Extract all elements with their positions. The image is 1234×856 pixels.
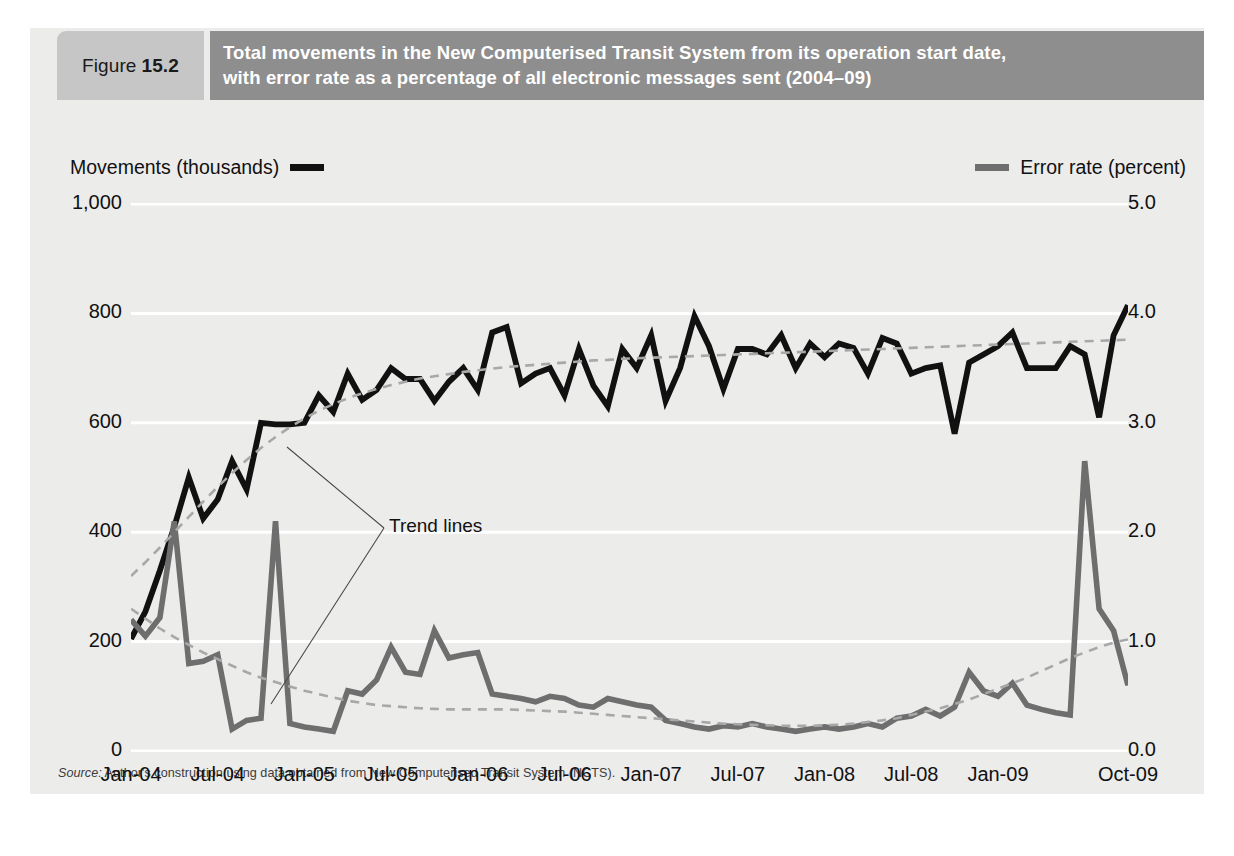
y-axis-left-tick: 1,000 (50, 192, 122, 212)
trend-lines-annotation: Trend lines (389, 515, 482, 537)
figure-panel: Figure15.2 Total movements in the New Co… (30, 28, 1204, 794)
figure-title-line-1: Total movements in the New Computerised … (223, 40, 1190, 65)
figure-number: 15.2 (142, 55, 179, 77)
y-axis-left-tick: 600 (50, 411, 122, 431)
y-axis-right-tick: 1.0 (1128, 630, 1200, 650)
figure-title: Total movements in the New Computerised … (210, 31, 1204, 100)
y-axis-right-tick: 4.0 (1128, 301, 1200, 321)
legend-error-rate-swatch-icon (975, 164, 1009, 171)
trend-lines-annotation-label: Trend lines (389, 515, 482, 536)
figure-label: Figure (82, 55, 136, 77)
x-axis-tick: Oct-09 (1073, 764, 1183, 784)
series-line-2 (131, 340, 1128, 576)
plot-area (131, 203, 1128, 750)
y-axis-left-tick: 800 (50, 301, 122, 321)
figure-title-line-2: with error rate as a percentage of all e… (223, 65, 1190, 90)
legend-movements-swatch-icon (290, 164, 324, 171)
y-axis-left-tick: 400 (50, 520, 122, 540)
y-axis-left-tick: 0 (50, 739, 122, 759)
series-line-1 (131, 461, 1128, 731)
y-axis-right-tick: 0.0 (1128, 739, 1200, 759)
x-axis-tick: Jan-09 (943, 764, 1053, 784)
y-axis-right-tick: 2.0 (1128, 520, 1200, 540)
legend-error-rate-label: Error rate (percent) (1020, 156, 1186, 179)
legend-error-rate: Error rate (percent) (975, 156, 1186, 179)
chart-svg (131, 203, 1128, 752)
figure-header: Figure15.2 Total movements in the New Co… (30, 28, 1204, 100)
legend-movements-label: Movements (thousands) (70, 156, 279, 179)
y-axis-right-tick: 5.0 (1128, 192, 1200, 212)
y-axis-left-tick: 200 (50, 630, 122, 650)
y-axis-right-tick: 3.0 (1128, 411, 1200, 431)
legend-movements: Movements (thousands) (70, 156, 324, 179)
figure-number-badge: Figure15.2 (57, 31, 204, 100)
